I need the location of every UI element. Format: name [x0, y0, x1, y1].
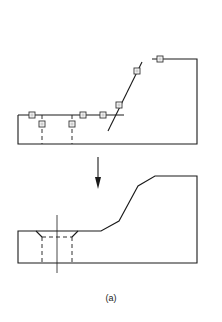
top-outline — [18, 59, 197, 144]
marker-square — [100, 112, 106, 118]
diagram-figure: (a) — [0, 0, 222, 322]
edge-markers — [29, 56, 163, 127]
marker-square — [69, 121, 75, 127]
marker-square — [116, 102, 122, 108]
marker-square — [80, 112, 86, 118]
part-outline — [18, 176, 197, 263]
top-view — [18, 56, 197, 144]
bottom-view — [18, 176, 197, 273]
marker-square — [157, 56, 163, 62]
marker-square — [39, 121, 45, 127]
countersink-edges — [36, 231, 42, 237]
marker-square — [134, 68, 140, 74]
marker-square — [29, 112, 35, 118]
down-arrow-icon — [95, 157, 101, 189]
figure-caption: (a) — [0, 293, 222, 303]
